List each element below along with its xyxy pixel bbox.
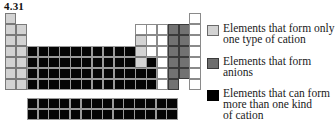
legend-swatch-black [207, 90, 219, 101]
element-cell [5, 24, 16, 35]
periodic-table-main [5, 13, 201, 91]
element-cell [5, 13, 16, 24]
element-cell [59, 79, 70, 90]
element-cell [16, 79, 27, 90]
f-block-cell [70, 98, 81, 109]
legend-text: Elements that can form more than one kin… [223, 88, 335, 121]
element-cell [179, 46, 190, 57]
f-block-cell [27, 98, 38, 109]
f-block-cell [70, 109, 81, 120]
element-cell [27, 46, 38, 57]
f-block-cell [81, 98, 92, 109]
element-cell [179, 24, 190, 35]
f-block-cell [48, 98, 59, 109]
f-block-cell [102, 98, 113, 109]
element-cell [70, 46, 81, 57]
legend-text: Elements that form only one type of cati… [223, 23, 335, 45]
element-cell [189, 13, 200, 24]
element-cell [135, 24, 146, 35]
legend-line: of cation [223, 110, 335, 121]
f-block-cell [59, 98, 70, 109]
element-cell [189, 46, 200, 57]
element-cell [135, 46, 146, 57]
element-cell [179, 35, 190, 46]
f-block-cell [113, 98, 124, 109]
f-block-cell [145, 98, 156, 109]
element-cell [27, 57, 38, 68]
element-cell [135, 57, 146, 68]
element-cell [146, 68, 157, 79]
element-cell [189, 79, 200, 90]
element-cell [81, 79, 92, 90]
f-block-cell [156, 98, 167, 109]
element-cell [5, 79, 16, 90]
element-cell [189, 24, 200, 35]
element-cell [114, 57, 125, 68]
element-cell [70, 57, 81, 68]
element-cell [168, 35, 179, 46]
element-cell [59, 46, 70, 57]
element-cell [179, 57, 190, 68]
element-cell [5, 68, 16, 79]
f-block-cell [59, 109, 70, 120]
f-block-cell [123, 98, 134, 109]
element-cell [124, 68, 135, 79]
element-cell [27, 79, 38, 90]
f-block-cell [166, 109, 177, 120]
legend-line: one type of cation [223, 34, 335, 45]
legend-swatch-light-gray [207, 25, 219, 36]
element-cell [27, 68, 38, 79]
element-cell [48, 46, 59, 57]
element-cell [168, 46, 179, 57]
f-block-cell [38, 98, 49, 109]
element-cell [16, 35, 27, 46]
element-cell [157, 35, 168, 46]
element-cell [16, 57, 27, 68]
legend-swatch-dark-gray [207, 58, 219, 69]
legend-text: Elements that form anions [223, 56, 335, 78]
element-cell [16, 24, 27, 35]
element-cell [135, 79, 146, 90]
element-cell [168, 68, 179, 79]
element-cell [38, 46, 49, 57]
element-cell [59, 57, 70, 68]
f-block-cell [102, 109, 113, 120]
element-cell [146, 79, 157, 90]
element-cell [157, 79, 168, 90]
figure-label: 4.31 [4, 0, 24, 12]
element-cell [146, 24, 157, 35]
element-cell [5, 57, 16, 68]
f-block-cell [27, 109, 38, 120]
element-cell [114, 46, 125, 57]
element-cell [135, 68, 146, 79]
element-cell [168, 79, 179, 90]
f-block-cell [38, 109, 49, 120]
element-cell [5, 46, 16, 57]
element-cell [157, 24, 168, 35]
element-cell [38, 57, 49, 68]
f-block-cell [48, 109, 59, 120]
element-cell [70, 79, 81, 90]
element-cell [124, 57, 135, 68]
element-cell [168, 57, 179, 68]
element-cell [189, 35, 200, 46]
element-cell [114, 68, 125, 79]
element-cell [92, 68, 103, 79]
element-cell [92, 46, 103, 57]
legend-line: anions [223, 67, 335, 78]
element-cell [81, 57, 92, 68]
f-block-cell [166, 98, 177, 109]
element-cell [92, 57, 103, 68]
element-cell [103, 57, 114, 68]
element-cell [157, 68, 168, 79]
element-cell [48, 79, 59, 90]
element-cell [114, 79, 125, 90]
f-block-cell [91, 109, 102, 120]
element-cell [92, 79, 103, 90]
element-cell [189, 68, 200, 79]
element-cell [103, 46, 114, 57]
element-cell [103, 68, 114, 79]
element-cell [189, 57, 200, 68]
element-cell [16, 46, 27, 57]
f-block-cell [81, 109, 92, 120]
